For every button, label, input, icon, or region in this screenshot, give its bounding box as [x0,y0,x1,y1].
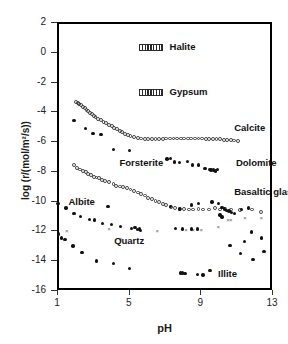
series-label-calcite: Calcite [234,123,265,133]
data-point-quartz: × [259,216,264,221]
data-point-forsterite [107,180,111,184]
y-tick-mark [51,141,57,142]
series-label-quartz: Quartz [114,236,144,246]
data-point-illite [260,236,263,239]
data-point-dolomite [216,168,219,171]
data-point-basaltic-glass [178,207,181,210]
data-point-albite [56,202,59,205]
x-tick-mark [200,290,201,295]
data-point-forsterite [259,210,263,214]
plot-area [57,22,272,290]
data-point-albite [93,218,96,221]
y-tick-mark [51,111,57,112]
data-point-basaltic-glass [190,203,193,206]
hatched-bar-marker [139,89,163,96]
data-point-illite [262,250,265,253]
data-point-basaltic-glass [210,200,213,203]
data-point-basaltic-glass [233,212,236,215]
y-tick-label: -12 [20,225,46,235]
data-point-quartz: × [155,229,160,234]
y-tick-label: -6 [20,136,46,146]
data-point-albite [112,262,115,265]
y-tick-mark [51,52,57,53]
data-point-dolomite [72,119,75,122]
data-point-albite [95,259,98,262]
data-point-dolomite [197,163,200,166]
series-label-gypsum: Gypsum [170,87,208,97]
data-point-albite [72,212,75,215]
data-point-illite [181,227,184,230]
series-label-dolomite: Dolomite [236,158,277,168]
y-tick-mark [51,260,57,261]
y-tick-label: -2 [20,77,46,87]
x-axis-title: pH [57,322,272,334]
data-point-forsterite [182,207,186,211]
data-point-quartz: × [184,228,189,233]
y-tick-mark [51,230,57,231]
data-point-quartz: × [216,225,221,230]
y-tick-label: -4 [20,106,46,116]
x-tick-label: 9 [188,298,212,308]
data-point-albite [64,206,67,209]
y-tick-mark [51,82,57,83]
y-axis-title: log (r/(mol/m²/s)) [20,76,31,246]
data-point-illite [251,258,254,261]
data-point-illite [196,227,199,230]
data-point-dolomite [112,148,115,151]
data-point-dolomite [191,163,194,166]
y-tick-label: 0 [20,47,46,57]
data-point-illite [250,230,253,233]
series-label-forsterite: Forsterite [120,158,164,168]
y-tick-label: -16 [20,285,46,295]
data-point-illite [190,227,193,230]
x-tick-label: 5 [117,298,141,308]
data-point-dolomite [91,132,94,135]
data-point-albite [88,218,91,221]
data-point-basaltic-glass [220,215,223,218]
data-point-forsterite [187,208,191,212]
data-point-albite [79,215,82,218]
series-label-basaltic-glass: Basaltic glass [234,187,288,197]
data-point-dolomite [203,167,206,170]
data-point-calcite [236,139,240,143]
x-tick-mark [57,290,58,295]
data-point-albite [139,229,142,232]
y-tick-label: 2 [20,17,46,27]
x-tick-label: 1 [45,298,69,308]
hatched-bar-marker [139,44,163,51]
data-point-illite [228,244,231,247]
data-point-illite [174,227,177,230]
series-label-illite: Illite [218,269,237,279]
y-tick-label: -8 [20,166,46,176]
data-point-dolomite [173,160,176,163]
data-point-quartz: × [106,227,111,232]
x-tick-mark [272,290,273,295]
data-point-dolomite [99,133,102,136]
data-point-quartz: × [228,218,233,223]
data-point-albite [63,238,66,241]
mineral-dissolution-rate-chart: log (r/(mol/m²/s)) pH 20-2-4-6-8-10-12-1… [0,0,288,344]
series-label-albite: Albite [68,197,94,207]
x-tick-label: 13 [260,298,284,308]
x-tick-mark [129,290,130,295]
data-point-quartz: × [243,216,248,221]
y-tick-label: -14 [20,255,46,265]
data-point-albite [71,244,74,247]
data-point-albite [106,205,109,208]
y-tick-mark [51,22,57,23]
series-label-halite: Halite [170,42,196,52]
y-tick-label: -10 [20,196,46,206]
data-point-quartz: × [64,229,69,234]
y-tick-mark [51,171,57,172]
data-point-quartz: × [199,228,204,233]
data-point-forsterite [213,206,217,210]
data-point-illite [201,273,204,276]
